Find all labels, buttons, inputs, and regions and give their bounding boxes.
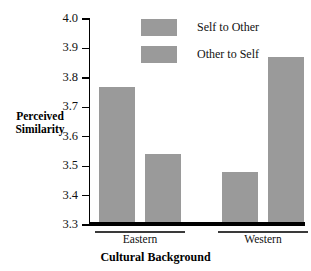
x-axis-title: Cultural Background [0,250,311,265]
bar-chart: Perceived Similarity 4.03.93.83.73.63.53… [0,0,311,271]
x-axis-group-label: Western [208,233,311,245]
x-axis-baseline [89,222,305,226]
bar [222,172,258,225]
x-axis-group-label: Eastern [85,233,195,245]
bar [145,154,181,225]
bar [99,87,135,225]
bar [268,57,304,225]
